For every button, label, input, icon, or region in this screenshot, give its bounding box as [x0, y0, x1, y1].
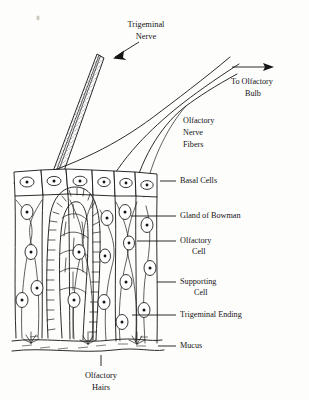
label-olfactory-cell-line1: Olfactory — [180, 236, 212, 245]
basal-cell-row — [14, 169, 157, 197]
label-basal-cells: Basal Cells — [180, 176, 217, 185]
label-gland-of-bowman: Gland of Bowman — [180, 211, 241, 220]
epithelium-group — [14, 169, 157, 343]
trigeminal-nerve-line1: Trigeminal — [128, 20, 166, 29]
label-olfactory-hairs: Olfactory Hairs — [85, 371, 118, 392]
label-supporting-cell-line2: Cell — [194, 288, 208, 297]
label-mucus: Mucus — [180, 341, 202, 350]
olfactory-nerve-fibers-line1: Olfactory — [183, 116, 215, 125]
label-supporting-cell: Supporting Cell — [180, 277, 216, 297]
olfactory-hair-tuft — [80, 332, 96, 344]
label-supporting-cell-line1: Supporting — [180, 277, 216, 286]
cell-nuclei-group — [16, 205, 156, 330]
olfactory-hairs-line2: Hairs — [92, 383, 110, 392]
to-olfactory-bulb-line1: To Olfactory — [231, 77, 274, 86]
olfactory-epithelium-figure: Trigeminal Nerve To Olfactory Bulb Olfac… — [0, 0, 309, 400]
label-olfactory-nerve-fibers: Olfactory Nerve Fibers — [183, 116, 215, 149]
trigeminal-nerve-line2: Nerve — [136, 32, 157, 41]
olfactory-nerve-fibers-line2: Nerve — [183, 128, 203, 137]
leader-lines — [101, 181, 176, 366]
gland-inner-wall — [59, 202, 88, 340]
label-to-olfactory-bulb: To Olfactory Bulb — [231, 77, 274, 98]
arrow-down-left-icon — [113, 42, 139, 60]
label-olfactory-cell-line2: Cell — [192, 247, 206, 256]
scan-speck — [36, 16, 39, 21]
olfactory-hair-tuft — [129, 332, 145, 344]
mucus-bottom-line — [12, 349, 164, 351]
diagram-canvas: Trigeminal Nerve To Olfactory Bulb Olfac… — [0, 0, 309, 400]
olfactory-hairs-line1: Olfactory — [85, 371, 118, 380]
olfactory-hair-tuft — [23, 332, 39, 343]
label-trigeminal-ending: Trigeminal Ending — [180, 310, 242, 319]
to-olfactory-bulb-line2: Bulb — [245, 89, 261, 98]
olfactory-nerve-fibers-line3: Fibers — [183, 140, 203, 149]
label-olfactory-cell: Olfactory Cell — [180, 236, 212, 256]
olfactory-hairs-group — [23, 332, 145, 344]
label-trigeminal-nerve: Trigeminal Nerve — [128, 20, 166, 41]
